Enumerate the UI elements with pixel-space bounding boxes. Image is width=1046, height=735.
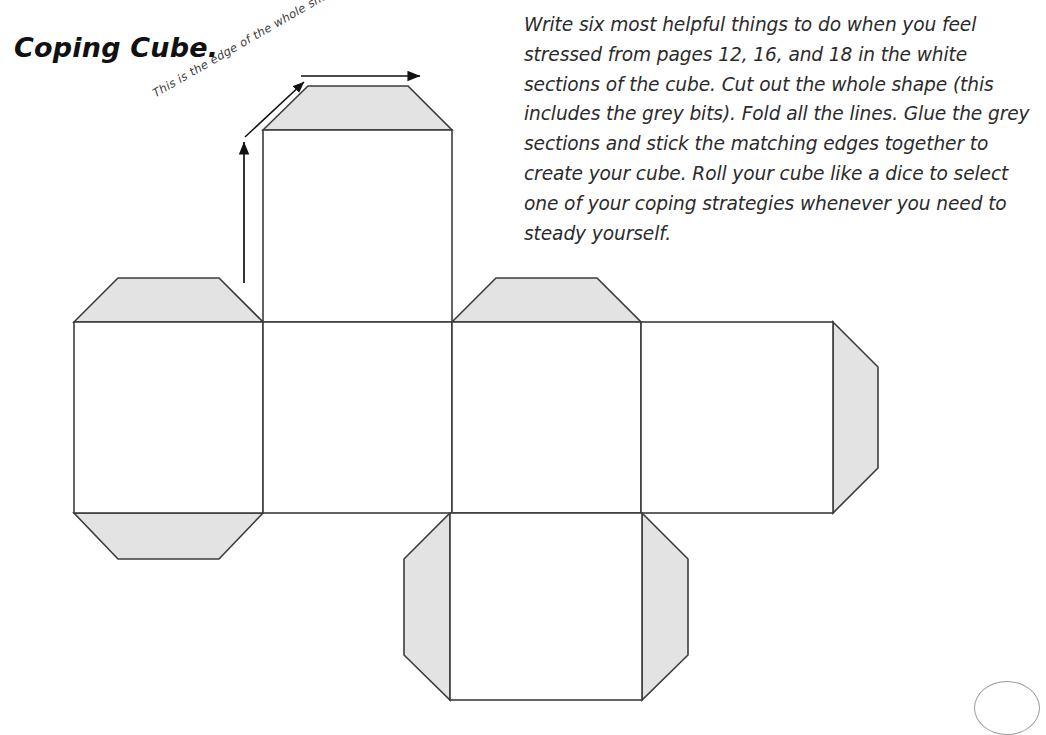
face-bottom bbox=[450, 513, 642, 700]
tab-left-lower bbox=[74, 513, 263, 559]
face-front bbox=[263, 322, 452, 513]
tab-left-upper bbox=[74, 278, 263, 322]
tab-right-upper bbox=[452, 278, 641, 322]
face-back bbox=[641, 322, 833, 513]
face-right bbox=[452, 322, 641, 513]
tab-top-upper bbox=[263, 86, 452, 130]
face-left bbox=[74, 322, 263, 513]
page-number-circle bbox=[974, 681, 1040, 735]
face-top-column bbox=[263, 130, 452, 322]
tab-back-right bbox=[833, 322, 878, 513]
tab-bottom-left bbox=[404, 513, 450, 700]
tab-bottom-right bbox=[642, 513, 688, 700]
